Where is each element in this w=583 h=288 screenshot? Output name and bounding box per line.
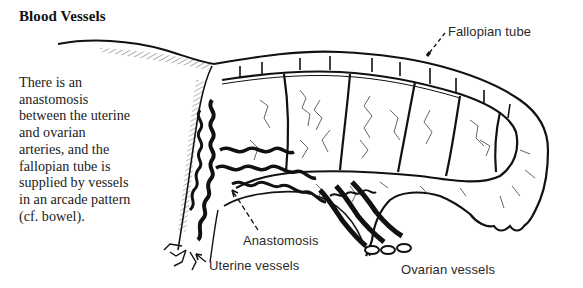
label-anastomosis: Anastomosis bbox=[243, 233, 319, 248]
label-uterine-vessels: Uterine vessels bbox=[209, 258, 299, 273]
ovarian-vessels-drawing bbox=[320, 182, 411, 254]
label-ovarian-vessels: Ovarian vessels bbox=[401, 262, 495, 277]
label-fallopian-tube: Fallopian tube bbox=[448, 24, 531, 39]
broad-ligament bbox=[58, 41, 214, 250]
fallopian-tube-outline bbox=[210, 52, 548, 262]
leader-lines bbox=[196, 33, 445, 262]
